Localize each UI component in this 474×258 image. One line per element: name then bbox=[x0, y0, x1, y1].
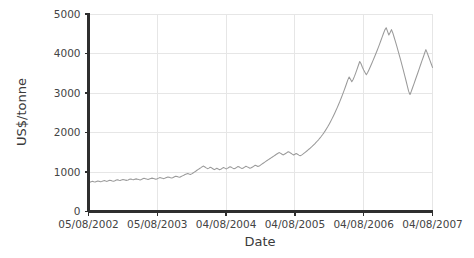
x-tick-label-5: 04/08/2007 bbox=[402, 218, 463, 230]
x-tick-label-0: 05/08/2002 bbox=[58, 218, 119, 230]
y-tick-label-2000: 2000 bbox=[54, 126, 81, 138]
x-tick-label-2: 04/08/2004 bbox=[196, 218, 257, 230]
x-axis-title: Date bbox=[244, 234, 275, 249]
y-axis-title: US$/tonne bbox=[14, 78, 29, 146]
y-tick-label-4000: 4000 bbox=[54, 47, 81, 59]
line-chart-svg: 010002000300040005000 05/08/200205/08/20… bbox=[0, 0, 474, 258]
y-tick-label-5000: 5000 bbox=[54, 8, 81, 20]
y-tick-label-0: 0 bbox=[74, 205, 81, 217]
y-tick-label-3000: 3000 bbox=[54, 87, 81, 99]
x-tick-label-3: 04/08/2005 bbox=[265, 218, 326, 230]
chart-figure: 010002000300040005000 05/08/200205/08/20… bbox=[0, 0, 474, 258]
y-tick-label-1000: 1000 bbox=[54, 166, 81, 178]
x-tick-label-4: 04/08/2006 bbox=[333, 218, 394, 230]
x-tick-label-1: 05/08/2003 bbox=[127, 218, 188, 230]
